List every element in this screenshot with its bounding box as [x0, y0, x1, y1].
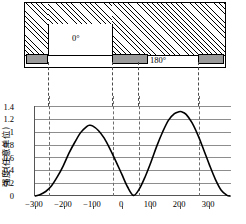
x-tick-label: 300 — [188, 200, 228, 209]
chrome-block-mid — [112, 54, 148, 64]
phase-shifter-notch — [48, 24, 113, 56]
mask-substrate-hatch-top — [48, 2, 113, 24]
mask-substrate-hatch-left — [24, 2, 49, 56]
y-tick-label: 0 — [0, 192, 14, 201]
phase-label-180deg: 180° — [150, 56, 166, 65]
figure-root: 0° 180° 强度(任意单位) 1.4 1.2 1 0.8 0.6 0.4 0… — [0, 0, 246, 224]
y-tick-label: 1 — [0, 128, 14, 137]
y-tick-label: 0.8 — [0, 141, 14, 150]
y-tick-label: 0.6 — [0, 154, 14, 163]
phase-label-0deg: 0° — [72, 34, 80, 43]
intensity-chart: 强度(任意单位) 1.4 1.2 1 0.8 0.6 0.4 0.2 0 — [0, 96, 246, 224]
intensity-curve-path — [35, 112, 230, 197]
y-tick-label: 1.4 — [0, 103, 14, 112]
chrome-block-left — [26, 54, 48, 64]
y-tick-label: 1.2 — [0, 115, 14, 124]
y-tick-label: 0.4 — [0, 166, 14, 175]
mask-substrate-hatch-right — [112, 2, 226, 56]
y-tick-label: 0.2 — [0, 179, 14, 188]
chrome-block-right — [198, 54, 224, 64]
mask-cross-section-diagram: 0° 180° — [24, 2, 226, 68]
intensity-curve — [34, 106, 230, 197]
